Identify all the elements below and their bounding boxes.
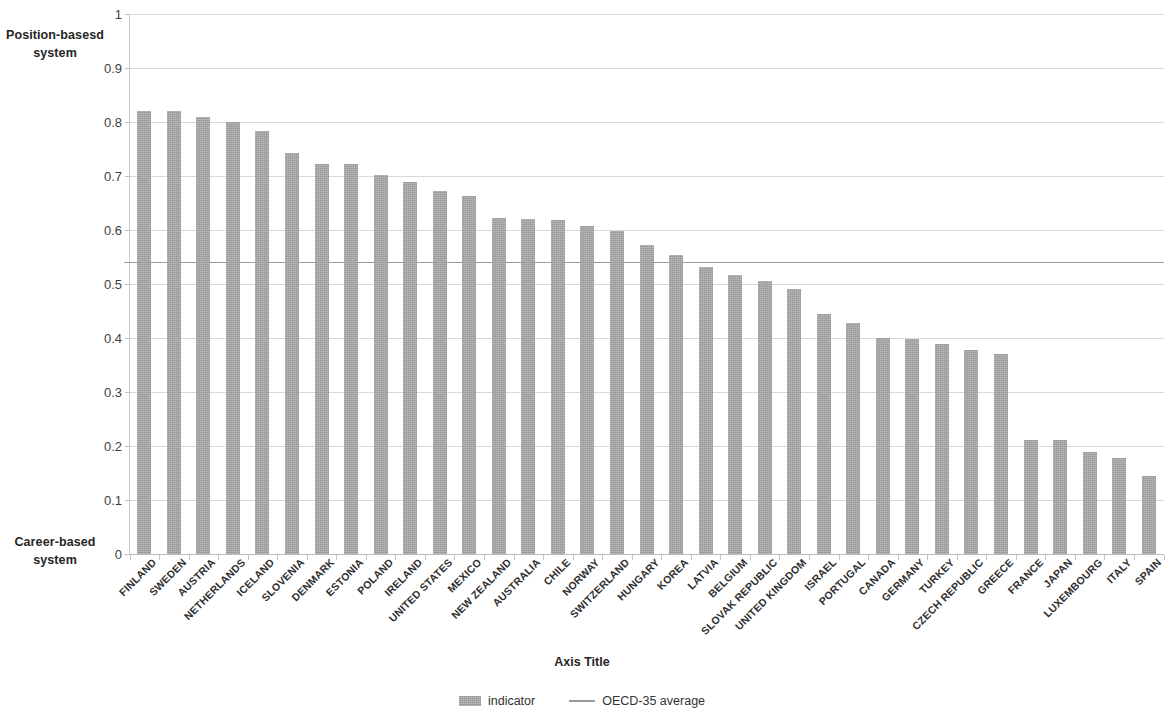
y-axis-tick-label: 0.4	[104, 331, 122, 346]
y-axis-tick-label: 0.9	[104, 61, 122, 76]
bar	[433, 191, 447, 554]
bar	[935, 344, 949, 554]
bar	[255, 131, 269, 554]
legend-label: indicator	[488, 694, 535, 708]
y-axis-tick-label: 0	[115, 547, 122, 562]
bar	[167, 111, 181, 554]
legend-item[interactable]: OECD-35 average	[569, 694, 705, 708]
bar	[462, 196, 476, 554]
y-axis-tick-mark	[125, 338, 130, 339]
bar	[758, 281, 772, 554]
bar	[580, 226, 594, 554]
bar	[551, 220, 565, 554]
bar	[876, 338, 890, 554]
y-axis-tick-mark	[125, 122, 130, 123]
bar	[699, 267, 713, 554]
y-axis-tick-mark	[125, 446, 130, 447]
bar	[492, 218, 506, 554]
gridline	[130, 68, 1164, 69]
x-axis-category-labels: FINLANDSWEDENAUSTRIANETHERLANDSICELANDSL…	[130, 556, 1164, 652]
bar	[964, 350, 978, 554]
y-axis-tick-labels: 00.10.20.30.40.50.60.70.80.91	[88, 14, 122, 554]
bar	[728, 275, 742, 554]
y-axis-tick-label: 0.8	[104, 115, 122, 130]
bar	[610, 231, 624, 554]
bar	[403, 182, 417, 554]
legend-line-swatch	[569, 700, 595, 702]
y-axis-tick-label: 1	[115, 7, 122, 22]
y-axis-tick-mark	[125, 284, 130, 285]
legend-bar-swatch	[459, 696, 481, 706]
y-axis-tick-label: 0.6	[104, 223, 122, 238]
y-axis-tick-mark	[125, 230, 130, 231]
x-axis-category-label: KOREA	[655, 556, 691, 592]
bar	[196, 117, 210, 554]
bar	[1024, 440, 1038, 554]
plot-area	[130, 14, 1164, 554]
y-axis-tick-label: 0.2	[104, 439, 122, 454]
bar	[344, 164, 358, 554]
x-axis-title: Axis Title	[0, 655, 1164, 669]
bar	[905, 339, 919, 554]
y-axis-tick-mark	[125, 500, 130, 501]
y-axis-tick-mark	[125, 68, 130, 69]
y-axis-tick-mark	[125, 14, 130, 15]
bar	[374, 175, 388, 554]
bar	[1053, 440, 1067, 554]
bar	[640, 245, 654, 554]
bar	[285, 153, 299, 554]
bar	[315, 164, 329, 554]
bar	[137, 111, 151, 554]
x-axis-category-label: ITALY	[1104, 556, 1133, 585]
bar	[1142, 476, 1156, 554]
x-axis-category-label: SPAIN	[1132, 556, 1163, 587]
y-axis-tick-mark	[125, 176, 130, 177]
oecd-average-line	[124, 262, 1164, 263]
y-axis-tick-mark	[125, 392, 130, 393]
bar	[1083, 452, 1097, 554]
bar	[817, 314, 831, 554]
bar	[226, 122, 240, 554]
bar	[1112, 458, 1126, 554]
chart-legend: indicatorOECD-35 average	[0, 694, 1164, 708]
y-axis-tick-label: 0.5	[104, 277, 122, 292]
legend-label: OECD-35 average	[602, 694, 705, 708]
bar	[521, 219, 535, 554]
y-axis-tick-label: 0.7	[104, 169, 122, 184]
x-axis-line	[124, 554, 1164, 555]
legend-item[interactable]: indicator	[459, 694, 535, 708]
bar	[787, 289, 801, 554]
y-axis-tick-label: 0.3	[104, 385, 122, 400]
bar	[846, 323, 860, 554]
y-axis-tick-label: 0.1	[104, 493, 122, 508]
bar	[669, 255, 683, 554]
bar	[994, 354, 1008, 554]
gridline	[130, 14, 1164, 15]
gridline	[130, 122, 1164, 123]
